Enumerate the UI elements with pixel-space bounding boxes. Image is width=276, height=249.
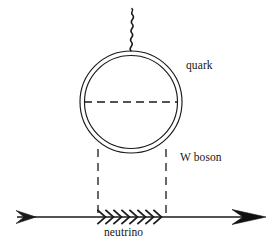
gluon-wavy-line — [130, 9, 134, 51]
quark-label: quark — [186, 60, 213, 72]
feynman-diagram — [0, 0, 276, 249]
figure-canvas: quark W boson neutrino — [0, 0, 276, 249]
neutrino-label: neutrino — [104, 227, 143, 239]
w-boson-label: W boson — [180, 152, 222, 164]
